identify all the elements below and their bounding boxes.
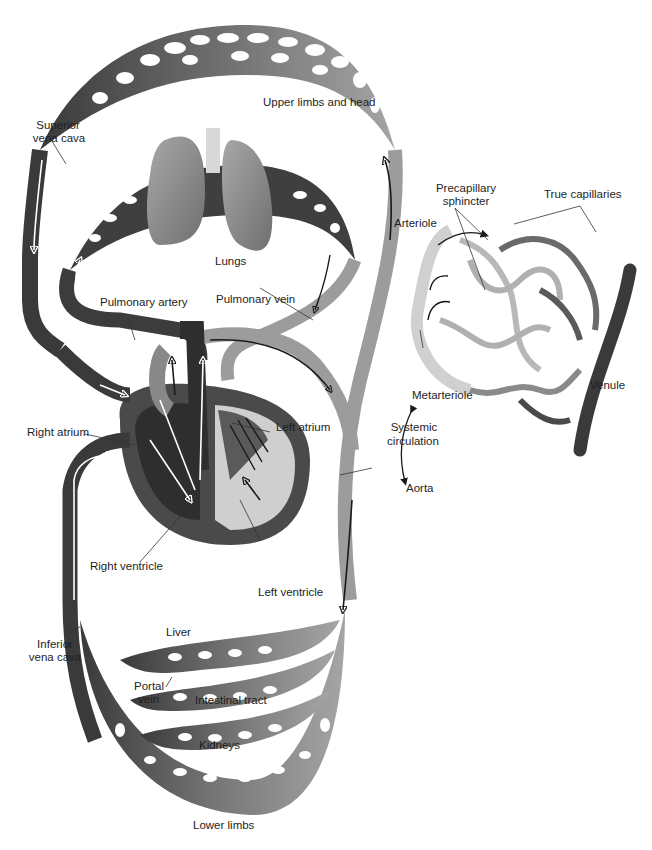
pulmonary-artery bbox=[67, 270, 200, 360]
label-arteriole: Arteriole bbox=[394, 217, 437, 230]
heart bbox=[120, 330, 310, 545]
label-aorta: Aorta bbox=[406, 482, 434, 495]
label-portal-vein-line1: Portal bbox=[134, 680, 164, 693]
label-intestinal-tract: Intestinal tract bbox=[195, 694, 267, 707]
label-portal-vein-line2: vein bbox=[138, 693, 159, 706]
label-left-atrium: Left atrium bbox=[276, 421, 330, 434]
label-pulmonary-artery: Pulmonary artery bbox=[100, 296, 188, 309]
label-metarteriole: Metarteriole bbox=[412, 389, 473, 402]
label-pulmonary-vein: Pulmonary vein bbox=[216, 293, 295, 306]
label-precapillary-sphincter-line2: sphincter bbox=[426, 195, 506, 208]
label-inferior-vena-cava-line2: vena cava bbox=[22, 651, 88, 664]
label-right-atrium: Right atrium bbox=[27, 426, 89, 439]
capillary-bed-detail bbox=[417, 230, 630, 450]
label-left-ventricle: Left ventricle bbox=[258, 586, 323, 599]
pulmonary-vein bbox=[227, 260, 355, 380]
label-systemic-circulation-line2: circulation bbox=[380, 435, 446, 448]
label-kidneys: Kidneys bbox=[199, 739, 240, 752]
aorta-arch bbox=[345, 150, 396, 600]
lower-body-capillary-beds bbox=[80, 610, 345, 815]
label-precapillary-sphincter-line1: Precapillary bbox=[426, 182, 506, 195]
label-liver: Liver bbox=[166, 626, 191, 639]
label-superior-vena-cava-line1: Superior bbox=[28, 119, 88, 132]
label-upper-limbs-and-head: Upper limbs and head bbox=[263, 96, 376, 109]
label-superior-vena-cava-line2: vena cava bbox=[24, 132, 94, 145]
circulatory-diagram: Upper limbs and head Superior vena cava … bbox=[0, 0, 652, 850]
label-true-capillaries: True capillaries bbox=[544, 188, 622, 201]
label-inferior-vena-cava-line1: Inferior bbox=[28, 638, 82, 651]
label-systemic-circulation-line1: Systemic bbox=[384, 421, 444, 434]
label-lungs: Lungs bbox=[215, 255, 246, 268]
label-right-ventricle: Right ventricle bbox=[90, 560, 163, 573]
pulmonary-capillary-bed bbox=[70, 165, 355, 270]
label-lower-limbs: Lower limbs bbox=[193, 819, 254, 832]
label-venule: Venule bbox=[590, 379, 625, 392]
